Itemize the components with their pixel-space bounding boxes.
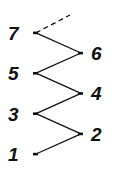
node-label-3: 3 [8,104,19,125]
edge-7-continuation [36,15,70,33]
node-marker-1 [33,153,38,156]
node-marker-5 [33,72,38,75]
node-marker-2 [78,133,83,136]
edge-4-5 [36,73,81,93]
edge-6-7 [36,33,81,53]
node-marker-3 [33,112,38,115]
edge-3-4 [36,93,81,113]
labels: 1234567 [8,23,102,165]
zigzag-diagram: 1234567 [0,0,116,169]
node-marker-4 [78,92,83,95]
node-label-2: 2 [90,124,102,145]
edge-1-2 [36,134,81,154]
node-label-5: 5 [8,63,19,84]
node-label-4: 4 [90,83,102,104]
node-marker-7 [33,32,38,35]
node-marker-6 [78,52,83,55]
edge-2-3 [36,114,81,134]
edges [36,15,81,154]
edge-5-6 [36,53,81,73]
node-label-6: 6 [91,43,102,64]
node-label-7: 7 [8,23,20,44]
node-label-1: 1 [8,144,19,165]
